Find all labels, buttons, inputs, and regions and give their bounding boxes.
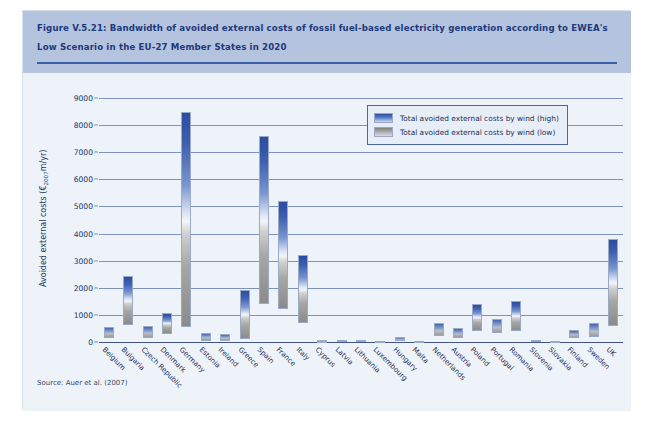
- y-tick-label-7000: 7000: [74, 148, 93, 157]
- bar-poland: [472, 304, 482, 331]
- legend-item-high: Total avoided external costs by wind (hi…: [374, 111, 559, 125]
- chart-area: Avoided external costs (€2007m/yr) 01000…: [23, 73, 631, 411]
- x-tick-label-poland: Poland: [469, 345, 492, 368]
- bar-germany: [181, 112, 191, 328]
- bar-france: [278, 201, 288, 309]
- bar-romania: [511, 301, 521, 330]
- y-tick-label-9000: 9000: [74, 94, 93, 103]
- figure-card: Figure V.5.21: Bandwidth of avoided exte…: [22, 10, 630, 410]
- legend-label-high: Total avoided external costs by wind (hi…: [400, 114, 559, 123]
- y-tick-mark-4000: [94, 233, 98, 234]
- x-tick-label-france: France: [275, 345, 298, 368]
- gridline-5000: 5000: [99, 206, 623, 207]
- bar-spain: [259, 136, 269, 304]
- bar-portugal: [492, 319, 502, 333]
- y-tick-mark-0: [94, 342, 98, 343]
- bar-slovakia: [550, 341, 560, 343]
- gridline-4000: 4000: [99, 234, 623, 235]
- y-tick-label-2000: 2000: [74, 283, 93, 292]
- bar-czech-republic: [143, 326, 153, 338]
- y-tick-label-5000: 5000: [74, 202, 93, 211]
- y-tick-label-1000: 1000: [74, 310, 93, 319]
- x-tick-label-italy: Italy: [294, 345, 311, 362]
- y-tick-mark-3000: [94, 260, 98, 261]
- y-axis-title-subscript: 2007: [43, 171, 49, 185]
- title-divider: [37, 62, 617, 64]
- bar-estonia: [201, 333, 211, 341]
- bar-sweden: [589, 323, 599, 337]
- bar-lithuania: [356, 340, 366, 342]
- bar-bulgaria: [123, 276, 133, 326]
- figure-source: Source: Auer et al. (2007): [37, 379, 128, 387]
- gridline-0: 0: [99, 342, 623, 343]
- gridline-3000: 3000: [99, 261, 623, 262]
- y-tick-label-3000: 3000: [74, 256, 93, 265]
- y-tick-label-8000: 8000: [74, 121, 93, 130]
- gridline-7000: 7000: [99, 152, 623, 153]
- y-tick-label-6000: 6000: [74, 175, 93, 184]
- y-axis-title: Avoided external costs (€2007m/yr): [39, 133, 50, 303]
- y-tick-mark-8000: [94, 125, 98, 126]
- legend-swatch-high: [374, 113, 393, 123]
- bar-austria: [453, 328, 463, 338]
- bar-greece: [240, 290, 250, 338]
- figure-title-band: Figure V.5.21: Bandwidth of avoided exte…: [23, 11, 631, 73]
- y-tick-label-4000: 4000: [74, 229, 93, 238]
- y-tick-mark-6000: [94, 179, 98, 180]
- legend-swatch-low: [374, 127, 393, 137]
- gridline-1000: 1000: [99, 315, 623, 316]
- figure-title: Figure V.5.21: Bandwidth of avoided exte…: [37, 19, 617, 57]
- legend-item-low: Total avoided external costs by wind (lo…: [374, 125, 559, 139]
- bar-netherlands: [434, 323, 444, 336]
- y-tick-mark-2000: [94, 287, 98, 288]
- y-tick-label-0: 0: [88, 338, 93, 347]
- x-tick-label-cyprus: Cyprus: [314, 345, 338, 369]
- bar-luxembourg: [375, 341, 385, 343]
- legend-label-low: Total avoided external costs by wind (lo…: [400, 128, 555, 137]
- y-tick-mark-1000: [94, 314, 98, 315]
- gridline-6000: 6000: [99, 179, 623, 180]
- bar-latvia: [337, 340, 347, 342]
- bar-slovenia: [531, 340, 541, 342]
- bar-hungary: [395, 337, 405, 340]
- bar-belgium: [104, 327, 114, 339]
- bar-denmark: [162, 313, 172, 334]
- chart-legend: Total avoided external costs by wind (hi…: [367, 105, 568, 145]
- figure-page: Figure V.5.21: Bandwidth of avoided exte…: [0, 0, 652, 423]
- y-tick-mark-5000: [94, 206, 98, 207]
- x-axis-labels: BelgiumBulgariaCzech RepublicDenmarkGerm…: [99, 345, 623, 405]
- y-tick-mark-7000: [94, 152, 98, 153]
- bar-italy: [298, 255, 308, 323]
- bar-malta: [414, 341, 424, 343]
- gridline-2000: 2000: [99, 288, 623, 289]
- y-axis-title-suffix: m/yr): [39, 150, 48, 172]
- bar-uk: [608, 239, 618, 326]
- x-tick-label-uk: UK: [605, 345, 618, 358]
- bar-finland: [569, 330, 579, 338]
- bar-ireland: [220, 334, 230, 341]
- y-tick-mark-9000: [94, 98, 98, 99]
- y-axis-title-prefix: Avoided external costs (€: [39, 186, 48, 287]
- bar-cyprus: [317, 340, 327, 342]
- gridline-9000: 9000: [99, 98, 623, 99]
